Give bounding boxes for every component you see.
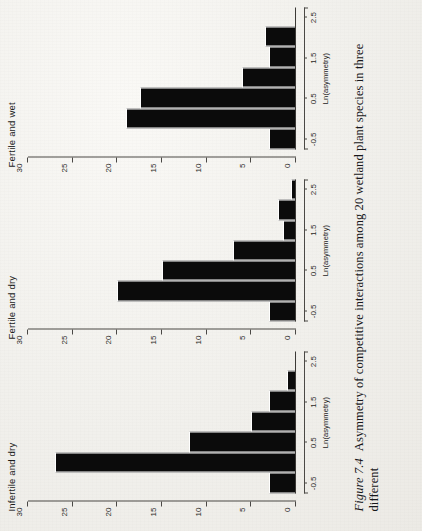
y-tick-label: 0 — [283, 507, 292, 511]
y-tick — [27, 329, 28, 334]
y-tick-label: 5 — [238, 507, 247, 511]
x-tick-label: 0.5 — [309, 437, 318, 448]
bar — [162, 260, 296, 280]
y-tick — [250, 329, 251, 334]
x-axis-title: Ln(asymmetry) — [321, 52, 330, 103]
y-tick-label: 30 — [15, 335, 24, 344]
y-tick — [295, 501, 296, 506]
x-tick-label: -0.5 — [309, 476, 318, 490]
x-axis-line — [304, 7, 305, 149]
x-tick-label: 2.5 — [309, 184, 318, 195]
y-tick-label: 25 — [59, 335, 68, 344]
x-axis-line — [304, 351, 305, 493]
bar — [117, 280, 296, 300]
x-tick-label: 2.5 — [309, 12, 318, 23]
x-tick-label: 0.5 — [309, 93, 318, 104]
y-axis-line — [28, 500, 296, 501]
x-tick — [304, 16, 307, 17]
bar — [55, 452, 296, 473]
x-axis: -0.50.51.52.5 Ln(asymmetry) — [304, 7, 334, 149]
y-tick-label: 30 — [15, 163, 24, 172]
x-axis-line — [304, 179, 305, 321]
baseline — [295, 351, 296, 493]
bar — [126, 108, 296, 129]
y-tick — [206, 501, 207, 506]
bar-group — [28, 351, 296, 493]
x-tick-label: -0.5 — [309, 132, 318, 146]
x-tick — [304, 441, 307, 442]
y-tick-label: 20 — [104, 335, 113, 344]
x-axis-left-cap — [304, 148, 308, 149]
baseline — [295, 179, 296, 321]
y-tick-label: 15 — [149, 335, 158, 344]
baseline — [295, 7, 296, 149]
x-tick — [304, 97, 307, 98]
bar — [269, 46, 296, 67]
x-axis-title: Ln(asymmetry) — [321, 396, 330, 447]
y-tick-label: 10 — [193, 163, 202, 172]
y-tick-label: 10 — [193, 335, 202, 344]
y-tick-label: 30 — [15, 507, 24, 516]
x-tick — [304, 138, 307, 139]
y-tick-label: 0 — [283, 163, 292, 167]
x-tick-label: -0.5 — [309, 304, 318, 318]
y-tick — [295, 157, 296, 162]
y-tick — [116, 501, 117, 506]
y-tick-label: 20 — [104, 507, 113, 516]
y-tick — [116, 157, 117, 162]
y-tick-label: 10 — [193, 507, 202, 516]
y-tick-label: 15 — [149, 163, 158, 172]
bar — [242, 67, 296, 88]
x-tick — [304, 360, 307, 361]
bar — [251, 411, 296, 432]
bar-group — [28, 179, 296, 321]
y-tick-label: 20 — [104, 163, 113, 172]
x-tick-label: 2.5 — [309, 356, 318, 367]
x-tick — [304, 310, 307, 311]
panel-title: Fertile and dry — [6, 275, 17, 339]
y-tick — [161, 501, 162, 506]
bar — [278, 199, 296, 219]
y-tick-label: 5 — [238, 335, 247, 339]
x-tick — [304, 229, 307, 230]
figure-7-4: Infertile and dry Frequency 051015202530… — [0, 0, 422, 531]
y-tick — [206, 329, 207, 334]
y-tick — [116, 329, 117, 334]
y-tick-label: 5 — [238, 163, 247, 167]
y-tick — [295, 329, 296, 334]
x-tick — [304, 482, 307, 483]
panel-title: Infertile and dry — [6, 442, 17, 511]
x-axis-left-cap — [304, 320, 308, 321]
x-axis: -0.50.51.52.5 Ln(asymmetry) — [304, 351, 334, 493]
bar — [269, 390, 296, 411]
x-axis-left-cap — [304, 492, 308, 493]
bar — [189, 431, 296, 452]
y-axis-line — [28, 328, 296, 329]
y-tick — [27, 501, 28, 506]
panel-title: Fertile and wet — [6, 102, 17, 167]
x-tick — [304, 401, 307, 402]
y-tick-label: 0 — [283, 335, 292, 339]
y-tick-label: 15 — [149, 507, 158, 516]
bar — [233, 240, 296, 260]
bar — [269, 301, 296, 321]
bar — [283, 220, 296, 240]
rotated-figure-stage: Infertile and dry Frequency 051015202530… — [0, 0, 422, 531]
bar — [265, 26, 296, 47]
y-tick — [250, 501, 251, 506]
x-tick-label: 1.5 — [309, 52, 318, 63]
bar — [269, 128, 296, 149]
x-tick-label: 0.5 — [309, 265, 318, 276]
figure-caption: Figure 7.4Asymmetry of competitive inter… — [352, 6, 382, 511]
x-tick — [304, 57, 307, 58]
bar — [269, 472, 296, 493]
y-tick — [206, 157, 207, 162]
y-axis-line — [28, 156, 296, 157]
plot-area: 051015202530 — [28, 179, 296, 321]
figure-caption-text: Asymmetry of competitive interactions am… — [352, 43, 381, 511]
y-tick — [161, 157, 162, 162]
y-tick — [72, 501, 73, 506]
y-tick — [250, 157, 251, 162]
plot-area: Frequency 051015202530 — [28, 351, 296, 493]
panel-fertile-and-dry: Fertile and dry 051015202530 -0.50.51.52… — [6, 173, 336, 341]
